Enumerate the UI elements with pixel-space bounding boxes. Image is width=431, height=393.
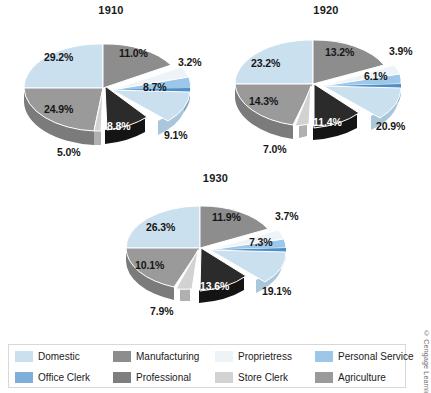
legend-label-agriculture: Agriculture xyxy=(338,372,386,383)
pie-canvas-1920: 23.2% 13.2% 3.9% 6.1% 20.9% 11.4% 7.0% 1… xyxy=(221,18,431,170)
legend-swatch-store-clerk xyxy=(215,372,233,383)
legend-swatch-agriculture xyxy=(315,372,333,383)
pie-chart-1930: 1930 xyxy=(108,172,323,340)
label-store-clerk-1910: 5.0% xyxy=(57,146,81,158)
legend-item-proprietress: Proprietress xyxy=(215,346,315,367)
legend-swatch-proprietress xyxy=(215,351,233,362)
label-proprietress-1920: 3.9% xyxy=(389,45,413,57)
pie-chart-1910: 1910 xyxy=(6,4,216,172)
label-domestic-exploded-1920: 20.9% xyxy=(376,120,405,132)
label-personal-service-1920: 6.1% xyxy=(364,70,388,82)
chart-title-1910: 1910 xyxy=(6,4,216,16)
label-agriculture-1910: 24.9% xyxy=(44,103,73,115)
legend-swatch-domestic xyxy=(15,351,33,362)
legend-swatch-office-clerk xyxy=(15,372,33,383)
legend-label-proprietress: Proprietress xyxy=(238,351,292,362)
legend-label-personal-service: Personal Service xyxy=(338,351,414,362)
pie-svg-1910 xyxy=(6,18,216,170)
pie-chart-1920: 1920 xyxy=(221,4,431,172)
label-proprietress-1930: 3.7% xyxy=(275,210,299,222)
label-domestic-1930: 26.3% xyxy=(146,221,175,233)
legend-item-manufacturing: Manufacturing xyxy=(113,346,215,367)
label-domestic-exploded-1930: 19.1% xyxy=(262,285,291,297)
legend-item-office-clerk: Office Clerk xyxy=(15,367,113,388)
pie-svg-1920 xyxy=(221,18,431,170)
label-professional-1920: 11.4% xyxy=(313,116,342,128)
label-agriculture-1920: 14.3% xyxy=(249,95,278,107)
label-personal-service-1910: 8.7% xyxy=(143,81,167,93)
legend: Domestic Manufacturing Proprietress Pers… xyxy=(8,344,406,388)
legend-swatch-professional xyxy=(113,372,131,383)
label-professional-1930: 13.6% xyxy=(200,280,229,292)
legend-label-office-clerk: Office Clerk xyxy=(38,372,90,383)
label-domestic-exploded-1910: 9.1% xyxy=(164,129,188,141)
label-manufacturing-1930: 11.9% xyxy=(212,211,241,223)
label-personal-service-1930: 7.3% xyxy=(249,236,273,248)
label-proprietress-1910: 3.2% xyxy=(178,56,202,68)
label-manufacturing-1910: 11.0% xyxy=(119,47,148,59)
copyright-credit: © Cengage Learning xyxy=(418,330,430,392)
chart-title-1930: 1930 xyxy=(108,172,323,184)
label-store-clerk-1920: 7.0% xyxy=(263,143,287,155)
legend-label-domestic: Domestic xyxy=(38,351,80,362)
label-professional-1910: 8.8% xyxy=(107,120,131,132)
label-agriculture-1930: 10.1% xyxy=(135,259,164,271)
legend-swatch-manufacturing xyxy=(113,351,131,362)
legend-item-personal-service: Personal Service xyxy=(315,346,414,367)
legend-item-domestic: Domestic xyxy=(15,346,113,367)
label-domestic-1910: 29.2% xyxy=(44,51,73,63)
legend-label-store-clerk: Store Clerk xyxy=(238,372,288,383)
chart-title-1920: 1920 xyxy=(221,4,431,16)
pie-canvas-1910: 29.2% 11.0% 3.2% 8.7% 9.1% 8.8% 5.0% 24.… xyxy=(6,18,216,170)
legend-label-manufacturing: Manufacturing xyxy=(136,351,199,362)
legend-swatch-personal-service xyxy=(315,351,333,362)
legend-label-professional: Professional xyxy=(136,372,191,383)
legend-item-store-clerk: Store Clerk xyxy=(215,367,315,388)
legend-item-professional: Professional xyxy=(113,367,215,388)
label-store-clerk-1930: 7.9% xyxy=(150,305,174,317)
label-domestic-1920: 23.2% xyxy=(251,57,280,69)
label-manufacturing-1920: 13.2% xyxy=(325,46,354,58)
pie-canvas-1930: 26.3% 11.9% 3.7% 7.3% 19.1% 13.6% 7.9% 1… xyxy=(108,186,323,338)
legend-item-agriculture: Agriculture xyxy=(315,367,414,388)
